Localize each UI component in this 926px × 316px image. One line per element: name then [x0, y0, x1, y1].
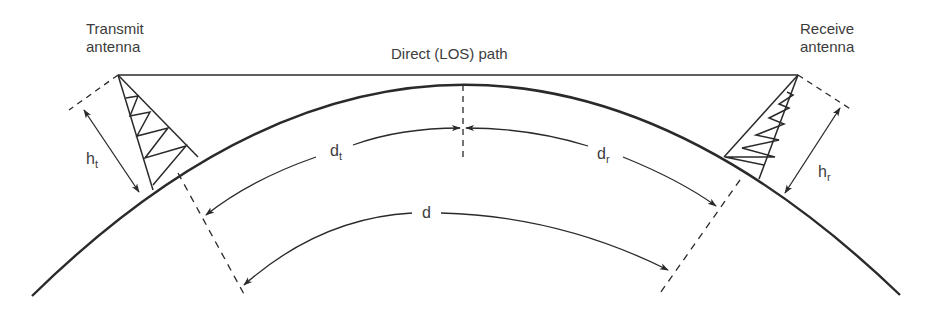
d-symbol: d	[422, 204, 431, 222]
hr-symbol: hr	[818, 163, 831, 186]
los-path-label: Direct (LOS) path	[391, 45, 508, 63]
receive-tower-icon	[724, 75, 798, 179]
ht-symbol: ht	[86, 150, 98, 173]
rx-radial-dashed-line	[658, 180, 740, 296]
d-arc	[244, 213, 668, 285]
dt-symbol: dt	[330, 142, 342, 165]
dr-symbol: dr	[597, 145, 610, 168]
dr-arc	[466, 128, 716, 206]
earth-surface-curve	[32, 85, 900, 296]
receive-antenna-label: Receive antenna	[800, 20, 854, 56]
ht-dimension	[69, 75, 139, 192]
transmit-antenna-label: Transmit antenna	[86, 20, 144, 56]
tx-radial-dashed-line	[178, 173, 245, 296]
